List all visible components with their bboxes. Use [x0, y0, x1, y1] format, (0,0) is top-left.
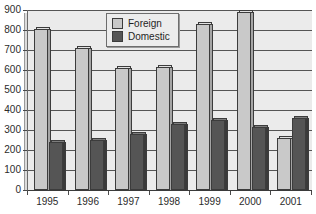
- bar-face: [156, 67, 170, 190]
- bar-face: [292, 118, 306, 190]
- bar-top: [117, 66, 131, 69]
- x-axis-tick-label: 1996: [68, 196, 109, 210]
- bar-foreign-1997: [115, 68, 129, 190]
- bar-domestic-1998: [171, 124, 185, 190]
- bar-top: [77, 46, 91, 49]
- bar-top: [239, 10, 253, 13]
- bar-side: [266, 127, 269, 190]
- bar-domestic-2000: [252, 127, 266, 190]
- y-axis-tick-label: 500: [4, 85, 21, 95]
- bar-top: [279, 136, 293, 139]
- bar-side: [185, 124, 188, 190]
- bar-group: [271, 10, 312, 190]
- cropped-title-sliver: [0, 0, 316, 4]
- y-axis-tick-label: 600: [4, 65, 21, 75]
- bar-foreign-1996: [75, 48, 89, 190]
- x-axis-tick-label: 2001: [270, 196, 311, 210]
- bar-foreign-2000: [237, 12, 251, 190]
- bar-face: [171, 124, 185, 190]
- x-axis-tick-label: 1999: [189, 196, 230, 210]
- x-axis-tick: [189, 191, 190, 195]
- x-axis-tick: [68, 191, 69, 195]
- bar-top: [198, 22, 212, 25]
- y-axis-tick-label: 100: [4, 165, 21, 175]
- bar-domestic-1995: [49, 142, 63, 190]
- x-axis-tick: [149, 191, 150, 195]
- bar-domestic-1996: [90, 140, 104, 190]
- x-axis-tick: [311, 191, 312, 195]
- legend-swatch-foreign: [112, 18, 123, 29]
- x-axis-tick-label: 1998: [149, 196, 190, 210]
- bar-domestic-2001: [292, 118, 306, 190]
- x-axis-labels: 1995199619971998199920002001: [27, 196, 311, 210]
- legend-item-foreign: Foreign: [112, 17, 170, 30]
- bar-face: [237, 12, 251, 190]
- bar-side: [63, 142, 66, 190]
- bar-top: [213, 118, 227, 121]
- y-axis-tick-label: 800: [4, 25, 21, 35]
- bar-face: [211, 120, 225, 190]
- x-axis-tick: [27, 191, 28, 195]
- bar-top: [36, 27, 50, 30]
- bar-side: [104, 140, 107, 190]
- y-axis-tick-label: 700: [4, 45, 21, 55]
- bar-face: [252, 127, 266, 190]
- y-axis-tick-label: 400: [4, 105, 21, 115]
- legend-label-foreign: Foreign: [128, 18, 162, 29]
- bar-group: [69, 10, 110, 190]
- bar-face: [196, 24, 210, 190]
- y-axis: 0100200300400500600700800900: [0, 0, 27, 214]
- bar-chart: 0100200300400500600700800900 19951996199…: [0, 0, 316, 214]
- bar-side: [306, 118, 309, 190]
- y-axis-tick-label: 900: [4, 5, 21, 15]
- x-axis-tick: [108, 191, 109, 195]
- bar-side: [225, 120, 228, 190]
- x-axis-tick-label: 2000: [230, 196, 271, 210]
- bar-foreign-1995: [34, 29, 48, 190]
- bar-top: [254, 125, 268, 128]
- bar-group: [231, 10, 272, 190]
- bar-foreign-2001: [277, 138, 291, 190]
- y-axis-tick-label: 0: [15, 185, 21, 195]
- bar-group: [28, 10, 69, 190]
- y-axis-tick-label: 300: [4, 125, 21, 135]
- bar-face: [277, 138, 291, 190]
- bar-top: [173, 122, 187, 125]
- bar-foreign-1998: [156, 67, 170, 190]
- bar-domestic-1997: [130, 134, 144, 190]
- bar-group: [190, 10, 231, 190]
- legend-label-domestic: Domestic: [128, 31, 170, 42]
- bar-foreign-1999: [196, 24, 210, 190]
- bar-face: [115, 68, 129, 190]
- x-axis-tick-label: 1995: [27, 196, 68, 210]
- bar-top: [51, 140, 65, 143]
- bar-top: [158, 65, 172, 68]
- bar-top: [92, 138, 106, 141]
- x-axis-tick: [230, 191, 231, 195]
- bar-top: [132, 132, 146, 135]
- cropped-bottom-sliver: [0, 209, 316, 214]
- bar-face: [130, 134, 144, 190]
- legend-swatch-domestic: [112, 31, 123, 42]
- legend-item-domestic: Domestic: [112, 30, 170, 43]
- bar-side: [144, 134, 147, 190]
- y-axis-tick-label: 200: [4, 145, 21, 155]
- chart-legend: Foreign Domestic: [106, 13, 179, 47]
- bar-face: [75, 48, 89, 190]
- bar-face: [34, 29, 48, 190]
- x-axis-tick: [270, 191, 271, 195]
- x-axis-tick-label: 1997: [108, 196, 149, 210]
- bar-face: [90, 140, 104, 190]
- bar-face: [49, 142, 63, 190]
- bar-top: [294, 116, 308, 119]
- bar-domestic-1999: [211, 120, 225, 190]
